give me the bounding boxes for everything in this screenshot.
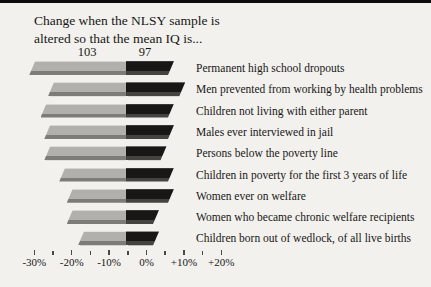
- bar-iq103-3: [44, 125, 126, 139]
- bar-iq97-0: [126, 61, 174, 75]
- axis-major-tick: [71, 250, 73, 255]
- category-label-5: Children in poverty for the first 3 year…: [196, 168, 407, 182]
- column-header-iq-103: 103: [57, 45, 117, 59]
- bar-iq97-2: [126, 104, 174, 118]
- bar-iq103-0: [29, 61, 126, 75]
- category-label-8: Children born out of wedlock, of all liv…: [196, 231, 411, 245]
- axis-tick-label-+20%: +20%: [199, 256, 243, 269]
- category-label-2: Children not living with either parent: [196, 104, 368, 118]
- top-border-rule: [0, 0, 431, 3]
- category-label-4: Persons below the poverty line: [196, 146, 338, 160]
- axis-minor-tick: [127, 251, 129, 255]
- bar-chart-figure: Change when the NLSY sample is altered s…: [0, 0, 431, 287]
- axis-major-tick: [146, 250, 148, 255]
- column-header-iq-97: 97: [115, 45, 175, 59]
- bar-iq97-5: [126, 168, 174, 182]
- bar-iq97-7: [126, 210, 159, 224]
- bar-iq97-8: [126, 231, 159, 245]
- category-label-6: Women ever on welfare: [196, 189, 306, 203]
- bar-iq103-2: [41, 104, 127, 118]
- bar-iq97-6: [126, 189, 174, 203]
- category-label-7: Women who became chronic welfare recipie…: [196, 210, 414, 224]
- bar-iq103-6: [67, 189, 126, 203]
- bar-iq103-4: [44, 146, 126, 160]
- axis-minor-tick: [164, 251, 166, 255]
- axis-major-tick: [221, 250, 223, 255]
- bar-iq103-5: [59, 168, 126, 182]
- chart-title: Change when the NLSY sample is altered s…: [34, 12, 220, 47]
- axis-major-tick: [108, 250, 110, 255]
- category-label-3: Males ever interviewed in jail: [196, 125, 333, 139]
- axis-minor-tick: [202, 251, 204, 255]
- axis-major-tick: [183, 250, 185, 255]
- axis-minor-tick: [52, 251, 54, 255]
- bar-iq103-7: [67, 210, 126, 224]
- bar-iq103-1: [48, 82, 126, 96]
- bar-iq97-4: [126, 146, 167, 160]
- category-label-1: Men prevented from working by health pro…: [196, 82, 423, 96]
- axis-minor-tick: [90, 251, 92, 255]
- category-label-0: Permanent high school dropouts: [196, 61, 345, 75]
- chart-title-line-1: Change when the NLSY sample is: [34, 12, 220, 30]
- bar-iq103-8: [78, 231, 126, 245]
- axis-major-tick: [34, 250, 36, 255]
- bar-iq97-1: [126, 82, 185, 96]
- bar-iq97-3: [126, 125, 174, 139]
